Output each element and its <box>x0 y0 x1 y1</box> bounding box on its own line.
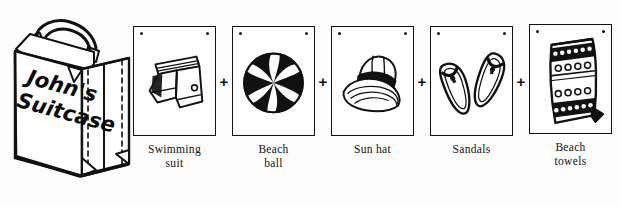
item-sandals: Sandals <box>429 26 514 157</box>
item-caption: Swimming suit <box>129 143 221 170</box>
item-beach-ball: Beach ball <box>231 26 316 170</box>
swimming-shorts-icon <box>134 27 215 135</box>
item-card <box>331 26 414 136</box>
item-card <box>529 24 612 134</box>
johns-suitcase: John's Suitcase <box>4 6 144 202</box>
item-caption-line2: suit <box>129 157 221 171</box>
beach-towel-icon <box>530 25 611 133</box>
item-caption-line2: towels <box>525 155 617 169</box>
item-caption-line1: Sun hat <box>327 143 419 157</box>
worksheet-illustration: John's Suitcase <box>0 0 620 207</box>
item-caption: Sandals <box>426 143 518 157</box>
plus-sign-1: + <box>217 26 231 136</box>
item-caption: Beach ball <box>228 143 320 170</box>
item-caption-line2: ball <box>228 157 320 171</box>
beach-ball-icon <box>233 27 314 135</box>
item-card <box>430 26 513 136</box>
plus-sign-3: + <box>415 26 429 136</box>
item-caption-line1: Beach <box>228 143 320 157</box>
item-sun-hat: Sun hat <box>330 26 415 157</box>
item-swimming-suit: Swimming suit <box>132 26 217 170</box>
sun-hat-icon <box>332 27 413 135</box>
item-card <box>133 26 216 136</box>
sandals-icon <box>431 27 512 135</box>
packing-items-row: Swimming suit + <box>132 26 602 186</box>
item-caption-line1: Swimming <box>129 143 221 157</box>
plus-sign-4: + <box>514 26 528 136</box>
plus-sign-2: + <box>316 26 330 136</box>
item-caption-line1: Sandals <box>426 143 518 157</box>
item-caption: Beach towels <box>525 141 617 168</box>
item-beach-towels: Beach towels <box>528 26 613 168</box>
item-caption: Sun hat <box>327 143 419 157</box>
item-caption-line1: Beach <box>525 141 617 155</box>
item-card <box>232 26 315 136</box>
